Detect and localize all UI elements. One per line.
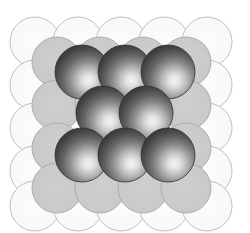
top-layer-sphere-7 [141,128,195,182]
lattice-diagram [0,0,250,233]
sphere-packing-figure [0,0,250,233]
